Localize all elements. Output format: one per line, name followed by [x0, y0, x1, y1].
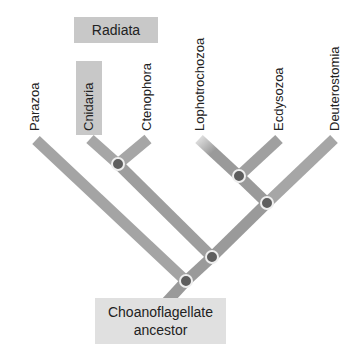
branch-ecdysozoa — [239, 139, 279, 176]
taxon-label-ctenophora: Ctenophora — [140, 63, 154, 131]
taxon-label-parazoa: Parazoa — [28, 83, 42, 131]
node-metazoa — [180, 275, 192, 287]
branch-bilateria — [212, 203, 267, 257]
taxon-label-lophotrochozoa: Lophotrochozoa — [193, 38, 207, 131]
taxon-label-cnidaria: Cnidaria — [82, 83, 96, 131]
branch-deuterostomia — [267, 139, 334, 203]
branch-radiata — [118, 164, 212, 257]
node-bilateria — [261, 197, 273, 209]
node-radiata — [112, 158, 124, 170]
root-label-line1: Choanoflagellate — [95, 303, 226, 321]
root-label-line2: ancestor — [95, 321, 226, 339]
node-eumetazoa — [206, 251, 218, 263]
taxon-label-ecdysozoa: Ecdysozoa — [272, 67, 286, 131]
radiata-group-label: Radiata — [74, 17, 158, 43]
branch-lophotrochozoa — [199, 139, 239, 176]
taxon-label-deuterostomia: Deuterostomia — [328, 46, 342, 131]
root-ancestor-box: Choanoflagellate ancestor — [95, 298, 226, 344]
node-protostomia — [233, 170, 245, 182]
